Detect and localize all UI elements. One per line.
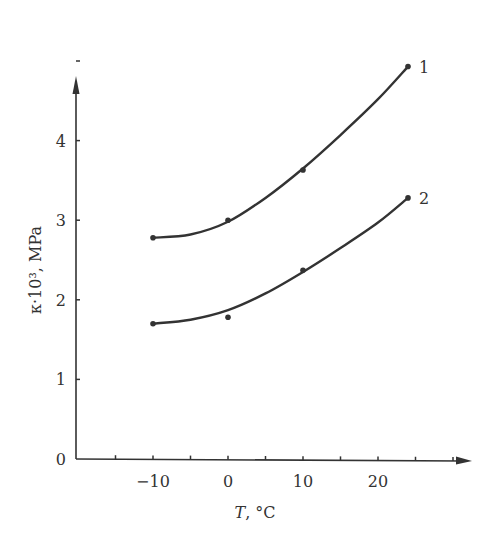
series-2-marker bbox=[405, 195, 411, 201]
y-tick-label: 2 bbox=[56, 291, 66, 310]
series-2-label: 2 bbox=[419, 189, 429, 208]
x-axis-arrow-icon bbox=[456, 457, 472, 465]
x-axis-line bbox=[76, 459, 462, 461]
y-tick-label: 3 bbox=[56, 211, 66, 230]
x-tick-label: 10 bbox=[293, 472, 313, 491]
series-1-marker bbox=[405, 64, 411, 70]
x-tick-label: −10 bbox=[136, 472, 170, 491]
curves bbox=[150, 64, 411, 327]
series-2-marker bbox=[225, 315, 231, 321]
series-2-marker bbox=[300, 268, 306, 274]
y-tick-label: 1 bbox=[56, 370, 66, 389]
x-axis-label: T, °C bbox=[234, 503, 275, 522]
labels: 01234−1001020T, °Cκ·10³, MPa12 bbox=[26, 58, 429, 522]
x-tick-label: 0 bbox=[223, 472, 233, 491]
x-tick-label: 20 bbox=[368, 472, 388, 491]
series-2-line bbox=[153, 198, 408, 324]
series-2-marker bbox=[150, 321, 156, 327]
series-1-line bbox=[153, 67, 408, 238]
y-tick-label: 4 bbox=[56, 132, 66, 151]
y-axis-label: κ·10³, MPa bbox=[26, 226, 45, 314]
series-1-marker bbox=[225, 217, 231, 223]
series-1-label: 1 bbox=[419, 58, 429, 77]
series-1-marker bbox=[150, 235, 156, 241]
axes bbox=[73, 61, 473, 465]
y-axis-arrow-icon bbox=[73, 76, 80, 94]
line-chart: 01234−1001020T, °Cκ·10³, MPa12 bbox=[0, 0, 493, 540]
y-tick-label: 0 bbox=[56, 450, 66, 469]
series-1-marker bbox=[300, 167, 306, 173]
